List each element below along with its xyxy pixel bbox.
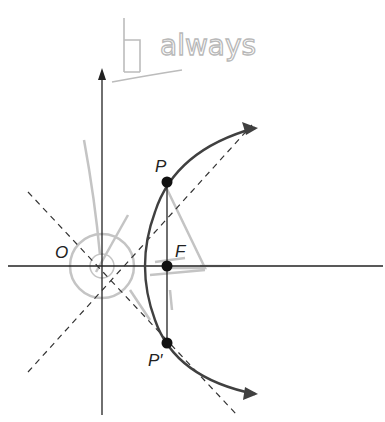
y-axis-arrow-icon [98, 68, 106, 80]
label-p-prime: P′ [148, 351, 163, 370]
annotation-text: always [160, 29, 256, 62]
point-p [162, 177, 173, 188]
focus-point [162, 261, 173, 272]
hyperbola-diagram: always P F O P′ [0, 0, 385, 422]
asymptotes [28, 125, 252, 415]
lower-arrow-icon [243, 387, 258, 400]
asymptote-falling [28, 192, 237, 415]
point-p-prime [162, 338, 173, 349]
label-o: O [55, 243, 68, 262]
label-p: P [155, 157, 167, 176]
handwritten-annotation: always [112, 18, 256, 82]
label-f: F [175, 242, 187, 261]
